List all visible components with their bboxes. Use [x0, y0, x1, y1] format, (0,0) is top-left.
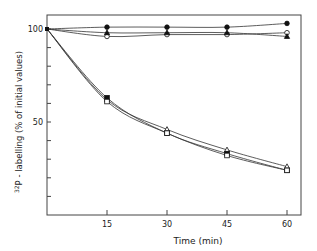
chart: 1530456050100 Time (min) 32P - labelling… — [0, 0, 317, 251]
y-tick-label: 50 — [33, 118, 43, 127]
open-square-marker — [105, 99, 110, 104]
plot-frame — [47, 15, 301, 215]
curve-open-triangle — [47, 29, 287, 167]
filled-circle-marker — [285, 21, 290, 26]
filled-circle-marker — [165, 25, 170, 30]
x-tick-label: 30 — [162, 220, 172, 229]
x-tick-label: 45 — [222, 220, 232, 229]
y-tick-label: 100 — [28, 25, 43, 34]
filled-circle-marker — [225, 25, 230, 30]
curve-open-square — [47, 29, 287, 170]
x-tick-label: 15 — [102, 220, 112, 229]
y-axis-label: 32P - labelling (% of initial values) — [13, 51, 24, 193]
filled-circle-marker — [105, 25, 110, 30]
open-square-marker — [225, 153, 230, 158]
open-square-marker — [165, 131, 170, 136]
curve-filled-square — [47, 29, 287, 170]
open-square-marker — [285, 168, 290, 173]
x-axis-label: Time (min) — [173, 236, 223, 246]
x-tick-label: 60 — [282, 220, 292, 229]
origin-marker — [45, 27, 49, 31]
